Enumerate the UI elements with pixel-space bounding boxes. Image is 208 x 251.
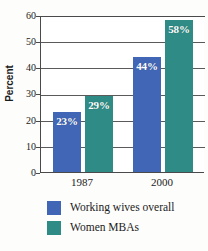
y-tick-label-30: 30 [10,89,36,99]
gridline-60 [41,16,205,17]
bar-value-label: 44% [133,60,161,72]
y-tick-label-50: 50 [10,37,36,47]
legend-swatch-blue [47,201,61,215]
bar-1987-women-mbas[interactable]: 29% [85,96,113,172]
bar-value-label: 58% [165,23,193,35]
bar-value-label: 23% [53,115,81,127]
bar-value-label: 29% [85,99,113,111]
y-tick-label-60: 60 [10,11,36,21]
bar-2000-working-wives[interactable]: 44% [133,57,161,172]
legend-item-women-mbas[interactable]: Women MBAs [47,219,207,237]
y-tick-label-10: 10 [10,142,36,152]
x-tick-label-1987: 1987 [52,176,112,188]
legend-swatch-teal [47,221,61,235]
legend: Working wives overall Women MBAs [47,199,207,239]
y-tick-label-40: 40 [10,63,36,73]
legend-label: Working wives overall [70,202,174,214]
plot-inner: 23% 29% 44% 58% [41,16,204,172]
plot-area: 23% 29% 44% 58% [40,16,204,173]
x-tick-label-2000: 2000 [132,176,192,188]
y-tick-label-0: 0 [10,168,36,178]
bar-chart-figure: Percent 60 50 40 30 20 10 0 23% 29% [0,0,208,251]
legend-item-working-wives[interactable]: Working wives overall [47,199,207,217]
bar-1987-working-wives[interactable]: 23% [53,112,81,172]
y-tick-mark-0 [36,173,40,174]
bar-2000-women-mbas[interactable]: 58% [165,20,193,172]
legend-label: Women MBAs [70,222,139,234]
y-tick-label-20: 20 [10,116,36,126]
